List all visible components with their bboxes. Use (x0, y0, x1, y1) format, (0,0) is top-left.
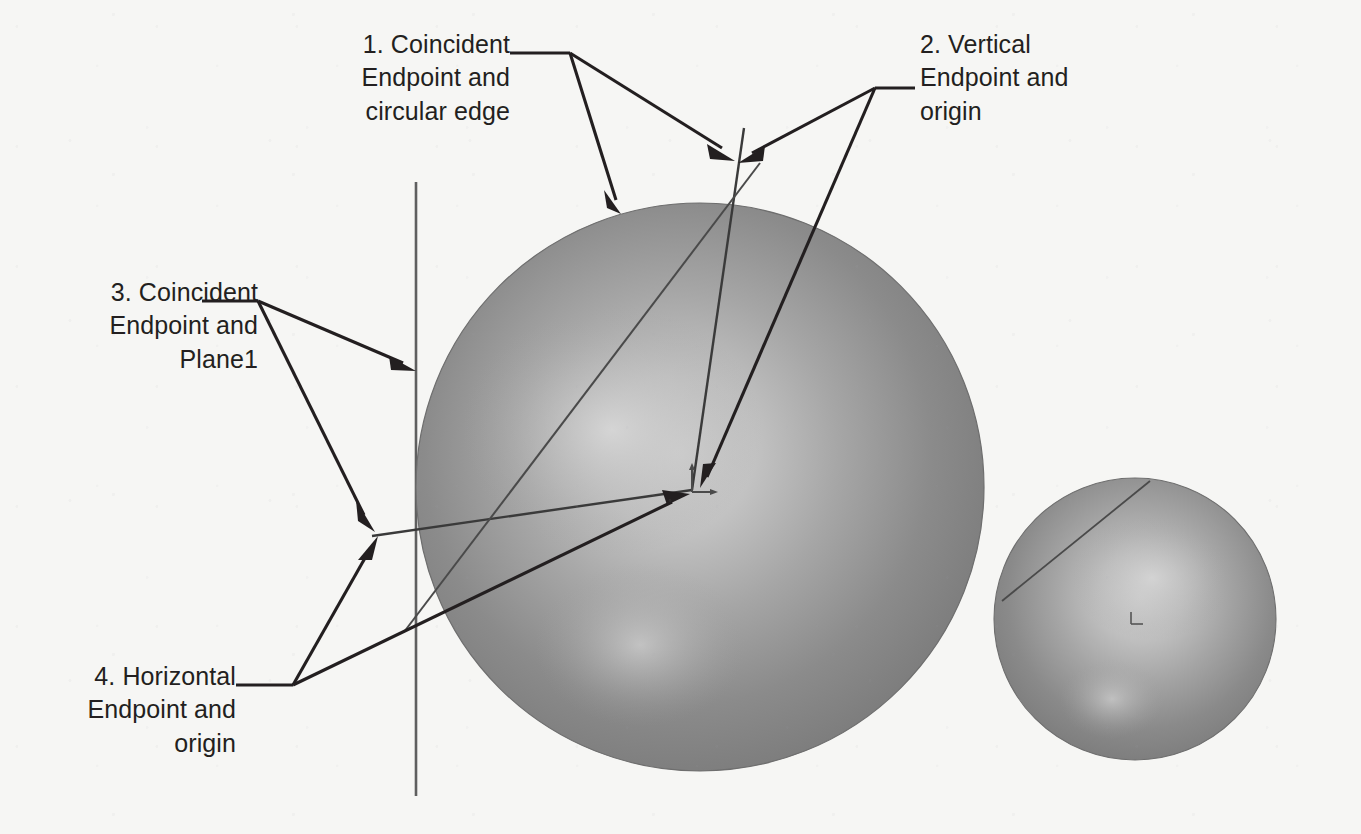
large-sphere (416, 203, 984, 771)
leader-annotation-1 (510, 53, 735, 214)
annotation-2-label: 2. Vertical Endpoint and origin (920, 28, 1180, 128)
diagram-page: 1. Coincident Endpoint and circular edge… (0, 0, 1361, 834)
annotation-3-label: 3. Coincident Endpoint and Plane1 (0, 276, 258, 376)
small-sphere (994, 478, 1276, 760)
annotation-4-label: 4. Horizontal Endpoint and origin (10, 660, 236, 760)
annotation-1-label: 1. Coincident Endpoint and circular edge (75, 28, 510, 128)
